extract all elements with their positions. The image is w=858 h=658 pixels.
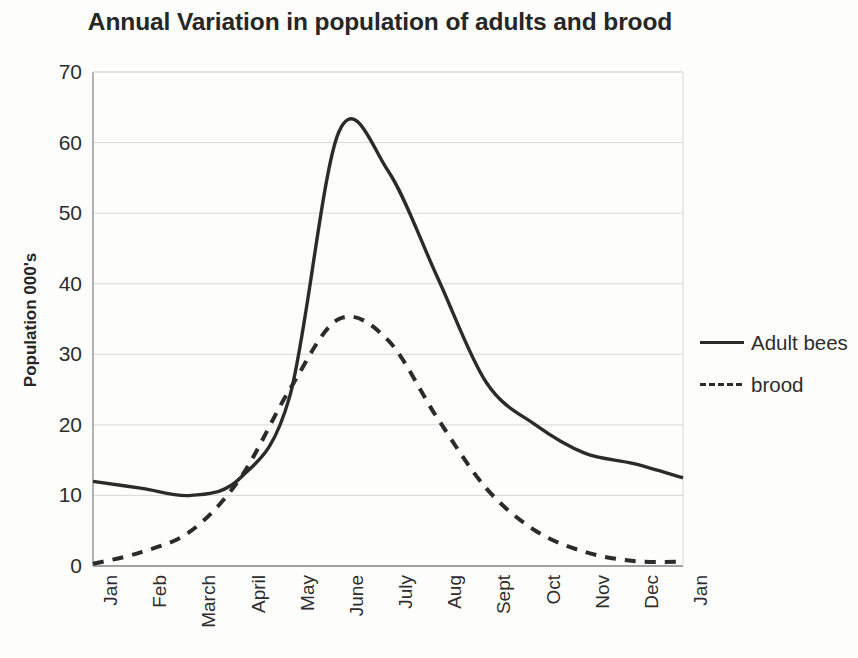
x-tick-label: Feb [150,575,169,658]
legend-item-adult-bees[interactable]: Adult bees [700,322,858,364]
legend-line-swatch-solid-icon [700,336,744,350]
x-tick-label: Dec [642,575,661,658]
legend-line-swatch-dashed-icon [700,378,744,392]
x-tick-label: May [298,575,317,658]
x-tick-label: Nov [593,575,612,658]
x-tick-label: Aug [445,575,464,658]
x-tick-label: June [347,575,366,658]
x-tick-label: Jan [691,575,710,658]
x-tick-label: Jan [101,575,120,658]
legend-label: Adult bees [751,333,848,354]
x-tick-label: March [199,575,218,658]
x-tick-label: Sept [494,575,513,658]
legend-item-brood[interactable]: brood [700,364,858,406]
chart-container: Annual Variation in population of adults… [0,0,858,658]
x-tick-label: July [396,575,415,658]
legend-label: brood [751,375,803,396]
chart-legend: Adult beesbrood [700,322,858,406]
x-tick-label: Oct [544,575,563,658]
x-tick-label: April [249,575,268,658]
